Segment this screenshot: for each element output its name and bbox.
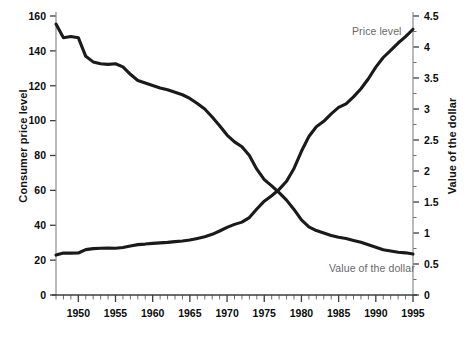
y-tick-label-right: 3 <box>424 103 430 115</box>
y-tick-label-left: 80 <box>34 149 46 161</box>
y-tick-label-left: 100 <box>28 114 46 126</box>
x-tick-label: 1955 <box>104 307 128 319</box>
series-label-dollar-value: Value of the dollar <box>329 262 415 274</box>
x-tick-label: 1965 <box>178 307 202 319</box>
y-tick-label-right: 2.5 <box>424 134 439 146</box>
y-tick-label-left: 20 <box>34 254 46 266</box>
x-tick-label: 1970 <box>215 307 239 319</box>
y-tick-label-left: 140 <box>28 45 46 57</box>
y-tick-label-right: 1 <box>424 227 430 239</box>
y-tick-label-left: 40 <box>34 219 46 231</box>
x-tick-label: 1950 <box>67 307 91 319</box>
y-tick-label-right: 4 <box>424 41 430 53</box>
y-tick-label-right: 0 <box>424 289 430 301</box>
x-tick-label: 1985 <box>327 307 351 319</box>
y-tick-label-left: 0 <box>40 289 46 301</box>
y-axis-left-title: Consumer price level <box>17 76 29 216</box>
x-tick-label: 1990 <box>364 307 388 319</box>
y-axis-right-title: Value of the dollar <box>446 76 458 216</box>
y-tick-label-left: 160 <box>28 10 46 22</box>
x-tick-label: 1995 <box>401 307 425 319</box>
series-label-price-level: Price level <box>352 25 402 37</box>
y-tick-label-left: 60 <box>34 184 46 196</box>
y-tick-label-right: 3.5 <box>424 72 439 84</box>
y-tick-label-left: 120 <box>28 80 46 92</box>
x-tick-label: 1980 <box>290 307 314 319</box>
y-tick-label-right: 4.5 <box>424 10 439 22</box>
series-line-dollar-value <box>56 24 413 254</box>
axis-spines <box>52 12 417 295</box>
y-tick-label-right: 1.5 <box>424 196 439 208</box>
y-axis-left-tick-labels: 020406080100120140160 <box>28 10 46 301</box>
dual-axis-line-chart: 020406080100120140160 00.511.522.533.544… <box>0 0 472 338</box>
axis-tick-marks <box>50 16 419 302</box>
x-tick-label: 1960 <box>141 307 165 319</box>
x-tick-label: 1975 <box>253 307 277 319</box>
y-tick-label-right: 2 <box>424 165 430 177</box>
chart-figure: 020406080100120140160 00.511.522.533.544… <box>0 0 472 338</box>
y-axis-right-tick-labels: 00.511.522.533.544.5 <box>424 10 439 301</box>
y-tick-label-right: 0.5 <box>424 258 439 270</box>
x-axis-tick-labels: 1950195519601965197019751980198519901995 <box>67 307 425 319</box>
